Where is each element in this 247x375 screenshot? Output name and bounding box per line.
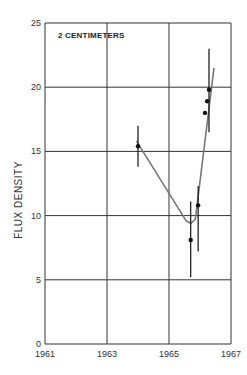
data-point bbox=[203, 111, 207, 115]
x-tick-label: 1963 bbox=[97, 349, 117, 359]
data-points bbox=[136, 49, 211, 278]
y-tick-label: 10 bbox=[31, 211, 41, 221]
y-tick-label: 25 bbox=[31, 18, 41, 28]
y-tick-label: 0 bbox=[36, 339, 41, 349]
y-tick-label: 15 bbox=[31, 146, 41, 156]
x-tick-label: 1961 bbox=[35, 349, 55, 359]
trend-line bbox=[137, 68, 215, 223]
data-point bbox=[136, 144, 140, 148]
data-point bbox=[189, 238, 193, 242]
data-point bbox=[207, 88, 211, 92]
x-tick-label: 1967 bbox=[221, 349, 241, 359]
flux-density-chart: 19611963196519670510152025 bbox=[0, 0, 247, 375]
data-point bbox=[196, 203, 200, 207]
grid-lines bbox=[45, 23, 231, 344]
y-tick-label: 5 bbox=[36, 275, 41, 285]
x-tick-label: 1965 bbox=[159, 349, 179, 359]
y-tick-label: 20 bbox=[31, 82, 41, 92]
trend-curve bbox=[137, 68, 215, 223]
